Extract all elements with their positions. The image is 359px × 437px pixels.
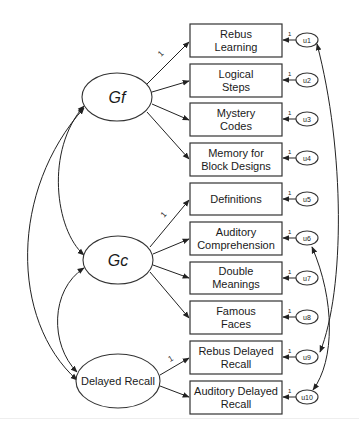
fixed-loading-label-gc: 1 xyxy=(159,210,169,220)
error-u4: 1u4 xyxy=(283,149,318,165)
svg-text:Gf: Gf xyxy=(109,89,127,106)
svg-text:u2: u2 xyxy=(303,77,311,84)
error-u3: 1u3 xyxy=(283,110,318,126)
svg-text:u9: u9 xyxy=(303,354,311,361)
svg-text:Gc: Gc xyxy=(108,252,128,269)
svg-text:u3: u3 xyxy=(303,116,311,123)
svg-text:1: 1 xyxy=(288,190,292,196)
svg-text:1: 1 xyxy=(288,31,292,37)
error-u9: 1u9 xyxy=(283,348,318,364)
indicator-rebus-delayed-recall: Rebus Delayed Recall xyxy=(190,341,282,374)
indicator-definitions: Definitions xyxy=(190,183,282,215)
svg-text:Famous: Famous xyxy=(216,305,256,317)
error-u10: 1u10 xyxy=(283,388,318,404)
error-terms: 1u1 1u2 1u3 1u4 1u5 1u6 1u7 1u8 1u9 1u10 xyxy=(283,31,318,404)
indicator-famous-faces: Famous Faces xyxy=(190,301,282,334)
svg-text:Faces: Faces xyxy=(221,318,251,330)
indicator-rebus-learning: Rebus Learning xyxy=(190,24,282,57)
latent-gf: Gf xyxy=(82,73,152,121)
svg-text:Learning: Learning xyxy=(215,41,258,53)
svg-text:Steps: Steps xyxy=(222,81,251,93)
svg-text:u8: u8 xyxy=(303,314,311,321)
svg-text:Logical: Logical xyxy=(219,68,254,80)
svg-text:Rebus: Rebus xyxy=(220,28,252,40)
indicator-memory-block-designs: Memory for Block Designs xyxy=(190,143,282,176)
error-u2: 1u2 xyxy=(283,71,318,87)
error-u5: 1u5 xyxy=(283,190,318,206)
svg-text:u7: u7 xyxy=(303,275,311,282)
error-u1: 1u1 xyxy=(283,31,318,47)
cov-gf-dr xyxy=(28,108,84,380)
svg-text:1: 1 xyxy=(288,348,292,354)
svg-text:Recall: Recall xyxy=(221,398,252,410)
svg-text:Block Designs: Block Designs xyxy=(201,160,271,172)
fixed-loading-label-dr: 1 xyxy=(167,353,176,363)
error-u8: 1u8 xyxy=(283,308,318,324)
svg-text:Comprehension: Comprehension xyxy=(197,239,275,251)
svg-text:Meanings: Meanings xyxy=(212,278,260,290)
svg-text:Codes: Codes xyxy=(220,120,252,132)
fixed-loading-label-gf: 1 xyxy=(156,49,166,59)
svg-text:Mystery: Mystery xyxy=(217,107,256,119)
gf-loadings xyxy=(147,42,189,159)
latent-delayed-recall: Delayed Recall xyxy=(76,354,160,408)
svg-text:Auditory: Auditory xyxy=(216,226,257,238)
indicator-auditory-delayed-recall: Auditory Delayed Recall xyxy=(190,381,282,414)
indicator-mystery-codes: Mystery Codes xyxy=(190,103,282,136)
svg-text:u10: u10 xyxy=(301,394,313,401)
svg-text:Recall: Recall xyxy=(221,358,252,370)
svg-text:1: 1 xyxy=(288,110,292,116)
svg-text:1: 1 xyxy=(288,149,292,155)
gc-loadings xyxy=(150,200,189,318)
indicator-double-meanings: Double Meanings xyxy=(190,262,282,294)
svg-text:1: 1 xyxy=(288,229,292,235)
svg-text:1: 1 xyxy=(288,269,292,275)
dr-loadings xyxy=(160,358,189,397)
svg-text:1: 1 xyxy=(288,71,292,77)
sem-diagram: 1 1 1 Gf Gc Delayed Recall Rebus Learnin… xyxy=(0,0,359,437)
svg-text:Double: Double xyxy=(219,265,254,277)
cov-gc-dr xyxy=(58,268,84,372)
svg-text:u1: u1 xyxy=(303,37,311,44)
svg-text:1: 1 xyxy=(288,308,292,314)
svg-text:Auditory Delayed: Auditory Delayed xyxy=(194,385,278,397)
svg-text:u4: u4 xyxy=(303,155,311,162)
svg-text:Definitions: Definitions xyxy=(210,193,262,205)
svg-text:u5: u5 xyxy=(303,196,311,203)
svg-text:u6: u6 xyxy=(303,235,311,242)
cov-gf-gc xyxy=(58,106,84,255)
error-u7: 1u7 xyxy=(283,269,318,285)
svg-text:Rebus Delayed: Rebus Delayed xyxy=(198,345,273,357)
page-edge-divider xyxy=(0,418,359,419)
indicator-auditory-comprehension: Auditory Comprehension xyxy=(190,222,282,255)
latent-gc: Gc xyxy=(83,236,153,284)
error-u6: 1u6 xyxy=(283,229,318,245)
indicator-logical-steps: Logical Steps xyxy=(190,64,282,97)
svg-text:Delayed Recall: Delayed Recall xyxy=(81,375,155,387)
svg-text:1: 1 xyxy=(288,388,292,394)
svg-text:Memory for: Memory for xyxy=(208,147,264,159)
